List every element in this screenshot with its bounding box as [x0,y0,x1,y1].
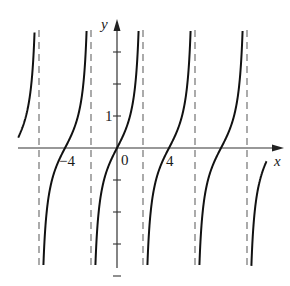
y-axis-arrow-icon [114,19,121,31]
x-tick-label-4: 4 [166,153,174,169]
tangent-graph: y x 0 −4 4 1 [0,0,290,286]
x-axis-label: x [273,153,281,169]
origin-label: 0 [121,152,129,168]
y-axis-label: y [99,16,108,32]
y-tick-label-1: 1 [105,108,113,124]
vertical-asymptotes [39,30,247,270]
axes [18,19,284,276]
x-tick-label-neg4: −4 [59,153,75,169]
x-axis-arrow-icon [272,145,284,152]
curve-branch-6 [251,161,266,266]
curve-branch-1 [18,32,34,137]
